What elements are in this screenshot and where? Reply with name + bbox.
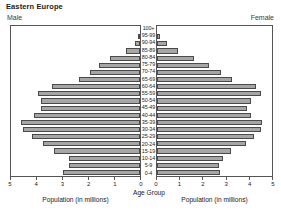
age-group-label-0-4: 0-4 xyxy=(145,171,153,176)
axis-tick-mark xyxy=(249,177,250,180)
bar-row xyxy=(11,133,140,140)
age-group-label-85-89: 85-89 xyxy=(142,48,155,53)
age-group-label-20-24: 20-24 xyxy=(142,142,155,147)
bar-row xyxy=(157,169,272,176)
axis-tick-mark xyxy=(226,177,227,180)
bar-male-80-84 xyxy=(110,56,140,61)
bar-male-100+ xyxy=(139,27,140,32)
axis-tick-label-5: 5 xyxy=(271,181,274,187)
age-group-row: 65-69 xyxy=(141,76,156,83)
bar-row xyxy=(11,126,140,133)
axis-tick-label-0: 0 xyxy=(154,181,157,187)
bar-row xyxy=(11,162,140,169)
bar-male-30-34 xyxy=(23,127,140,132)
age-group-label-5-9: 5-9 xyxy=(145,163,153,168)
bar-row xyxy=(157,55,272,62)
axis-tick-mark xyxy=(140,177,141,180)
axis-tick-label-0: 0 xyxy=(139,181,142,187)
age-group-row: 45-49 xyxy=(141,105,156,112)
age-group-row: 15-19 xyxy=(141,148,156,155)
bar-row xyxy=(157,126,272,133)
bar-female-55-59 xyxy=(157,91,261,96)
bar-female-100+ xyxy=(157,27,158,32)
axis-tick-mark xyxy=(202,177,203,180)
age-group-label-95-99: 95-99 xyxy=(142,33,155,38)
bar-row xyxy=(11,47,140,54)
age-group-row: 35-39 xyxy=(141,119,156,126)
bar-female-50-54 xyxy=(157,98,251,103)
bar-row xyxy=(157,140,272,147)
axis-tick-mark xyxy=(179,177,180,180)
male-side-label: Male xyxy=(7,14,22,21)
age-group-row: 80-84 xyxy=(141,54,156,61)
age-group-row: 100+ xyxy=(141,25,156,32)
axis-tick-label-2: 2 xyxy=(201,181,204,187)
axis-tick-label-1: 1 xyxy=(178,181,181,187)
bar-row xyxy=(157,90,272,97)
age-group-row: 75-79 xyxy=(141,61,156,68)
bar-female-35-39 xyxy=(157,120,262,125)
bar-row xyxy=(11,69,140,76)
axis-tick-label-2: 2 xyxy=(87,181,90,187)
axis-tick-label-4: 4 xyxy=(248,181,251,187)
age-group-label-75-79: 75-79 xyxy=(142,62,155,67)
bar-row xyxy=(157,162,272,169)
bar-row xyxy=(11,169,140,176)
age-group-label-25-29: 25-29 xyxy=(142,134,155,139)
bar-row xyxy=(157,47,272,54)
age-group-row: 25-29 xyxy=(141,134,156,141)
bar-male-0-4 xyxy=(63,170,140,175)
bar-female-45-49 xyxy=(157,106,247,111)
bar-row xyxy=(157,112,272,119)
bar-row xyxy=(157,76,272,83)
bar-male-40-44 xyxy=(34,113,140,118)
bar-male-95-99 xyxy=(138,34,140,39)
bar-row xyxy=(11,83,140,90)
bar-female-10-14 xyxy=(157,156,223,161)
bar-row xyxy=(11,55,140,62)
female-plot-panel xyxy=(156,25,273,177)
bar-row xyxy=(11,119,140,126)
bar-row xyxy=(157,119,272,126)
bar-row xyxy=(11,76,140,83)
axis-tick-mark xyxy=(10,177,11,180)
bar-row xyxy=(157,69,272,76)
bar-male-55-59 xyxy=(38,91,140,96)
bar-row xyxy=(157,155,272,162)
bar-male-60-64 xyxy=(52,84,140,89)
bar-row xyxy=(11,62,140,69)
age-group-label-70-74: 70-74 xyxy=(142,69,155,74)
age-group-row: 10-14 xyxy=(141,155,156,162)
bar-female-25-29 xyxy=(157,134,254,139)
age-group-label-65-69: 65-69 xyxy=(142,77,155,82)
age-group-row: 55-59 xyxy=(141,90,156,97)
bar-row xyxy=(157,147,272,154)
age-group-label-10-14: 10-14 xyxy=(142,156,155,161)
bar-male-85-89 xyxy=(126,48,140,53)
age-group-label-15-19: 15-19 xyxy=(142,149,155,154)
bar-row xyxy=(11,26,140,33)
age-group-label-35-39: 35-39 xyxy=(142,120,155,125)
bar-female-70-74 xyxy=(157,70,221,75)
bar-female-30-34 xyxy=(157,127,261,132)
axis-tick-mark xyxy=(272,177,273,180)
bar-female-75-79 xyxy=(157,63,209,68)
age-group-label-60-64: 60-64 xyxy=(142,84,155,89)
axis-tick-label-3: 3 xyxy=(225,181,228,187)
bar-row xyxy=(11,147,140,154)
bar-male-45-49 xyxy=(41,106,140,111)
age-group-label-80-84: 80-84 xyxy=(142,55,155,60)
bar-row xyxy=(11,97,140,104)
bar-row xyxy=(157,62,272,69)
age-group-row: 50-54 xyxy=(141,97,156,104)
bar-row xyxy=(11,112,140,119)
bar-female-65-69 xyxy=(157,77,232,82)
bar-male-50-54 xyxy=(41,98,140,103)
age-group-row: 20-24 xyxy=(141,141,156,148)
bar-row xyxy=(157,33,272,40)
age-group-label-50-54: 50-54 xyxy=(142,98,155,103)
male-axis-caption: Population (in millions) xyxy=(10,196,141,203)
female-bar-rows xyxy=(157,26,272,176)
bar-female-15-19 xyxy=(157,148,231,153)
age-group-label-45-49: 45-49 xyxy=(142,105,155,110)
